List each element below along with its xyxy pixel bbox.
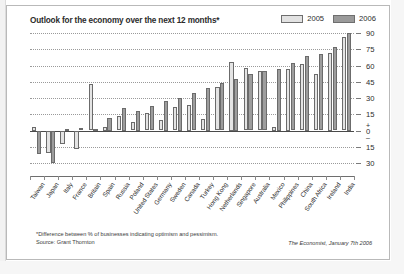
y-axis-label-3: 45 — [366, 77, 374, 86]
y-tick-0 — [356, 33, 361, 34]
y-axis-label-2: 60 — [366, 61, 374, 70]
bar-2006 — [37, 131, 41, 155]
legend-label-2006: 2006 — [359, 14, 376, 23]
bar-2006 — [347, 33, 351, 131]
bar-2006 — [93, 129, 97, 131]
bar-group — [312, 33, 326, 163]
x-tick-22 — [340, 176, 341, 180]
x-axis-category-labels: TaiwanJapanItalyFranceBritainSpainRussia… — [30, 181, 370, 227]
x-tick-6 — [115, 176, 116, 180]
x-tick-21 — [326, 176, 327, 180]
page-bottom-margin — [0, 261, 404, 274]
x-tick-10 — [171, 176, 172, 180]
bar-group — [227, 33, 241, 163]
bar-group — [199, 33, 213, 163]
bar-group — [157, 33, 171, 163]
bar-2005 — [314, 74, 318, 130]
y-axis-label-4: 30 — [366, 94, 374, 103]
bar-2006 — [333, 47, 337, 130]
y-tick-4 — [356, 98, 361, 99]
legend-swatch-2005 — [281, 15, 303, 23]
chart-title: Outlook for the economy over the next 12… — [30, 16, 219, 25]
x-tick-12 — [199, 176, 200, 180]
x-tick-18 — [284, 176, 285, 180]
bar-2005 — [46, 131, 50, 154]
bar-2006 — [150, 106, 154, 131]
x-tick-19 — [298, 176, 299, 180]
x-tick-17 — [269, 176, 270, 180]
bar-group — [44, 33, 58, 163]
bar-2005 — [74, 131, 78, 149]
bar-2006 — [206, 88, 210, 130]
bar-2006 — [136, 111, 140, 131]
category-label: Italy — [62, 181, 74, 194]
bar-2005 — [300, 64, 304, 130]
bar-group — [269, 33, 283, 163]
x-tick-23 — [354, 176, 355, 180]
x-tick-9 — [157, 176, 158, 180]
bar-2005 — [103, 127, 107, 130]
bar-2005 — [342, 37, 346, 130]
bar-2006 — [51, 131, 55, 164]
y-tick-6 — [356, 131, 361, 132]
bar-2005 — [60, 131, 64, 144]
bar-2005 — [286, 69, 290, 131]
bar-2005 — [201, 119, 205, 131]
x-tick-7 — [129, 176, 130, 180]
bar-2006 — [262, 71, 266, 131]
bar-group — [185, 33, 199, 163]
x-tick-3 — [72, 176, 73, 180]
bar-2006 — [107, 118, 111, 131]
bar-2006 — [319, 54, 323, 131]
category-label: Russia — [114, 181, 131, 201]
bar-group — [86, 33, 100, 163]
y-axis-label-0: 90 — [366, 29, 374, 38]
y-tick-2 — [356, 66, 361, 67]
bar-2005 — [215, 87, 219, 130]
footnote-line-1: *Difference between % of businesses indi… — [36, 231, 218, 239]
bar-2006 — [291, 63, 295, 130]
x-tick-13 — [213, 176, 214, 180]
y-axis-plus-sign: + — [366, 121, 370, 128]
bar-2005 — [173, 107, 177, 131]
y-tick-7 — [356, 147, 361, 148]
bar-2005 — [89, 84, 93, 131]
x-tick-20 — [312, 176, 313, 180]
y-tick-3 — [356, 82, 361, 83]
bar-2005 — [145, 113, 149, 130]
bar-2005 — [272, 127, 276, 130]
bar-2006 — [122, 108, 126, 131]
bar-2005 — [244, 68, 248, 131]
x-tick-1 — [44, 176, 45, 180]
bar-2005 — [159, 120, 163, 131]
bar-group — [255, 33, 269, 163]
bar-2005 — [32, 127, 36, 130]
bar-2005 — [117, 116, 121, 130]
y-axis-label-5: 15 — [366, 110, 374, 119]
x-tick-5 — [100, 176, 101, 180]
x-tick-16 — [255, 176, 256, 180]
x-tick-0 — [30, 176, 31, 180]
category-label: Japan — [44, 181, 59, 199]
y-axis-label-1: 75 — [366, 45, 374, 54]
bar-2005 — [229, 62, 233, 130]
bar-group — [58, 33, 72, 163]
bar-group — [326, 33, 340, 163]
category-label: France — [71, 181, 88, 201]
bar-2006 — [164, 101, 168, 130]
chart-legend: 2005 2006 — [281, 14, 376, 23]
category-label: Britain — [86, 181, 102, 199]
bar-group — [171, 33, 185, 163]
y-axis-label-8: 30 — [366, 159, 374, 168]
plot-bars — [30, 33, 354, 163]
bar-group — [213, 33, 227, 163]
x-tick-8 — [143, 176, 144, 180]
bar-group — [100, 33, 114, 163]
chart-page: Outlook for the economy over the next 12… — [0, 0, 404, 274]
bar-2006 — [178, 98, 182, 131]
legend-label-2005: 2005 — [307, 14, 324, 23]
y-tick-5 — [356, 114, 361, 115]
bar-group — [340, 33, 354, 163]
bar-group — [30, 33, 44, 163]
x-tick-15 — [241, 176, 242, 180]
